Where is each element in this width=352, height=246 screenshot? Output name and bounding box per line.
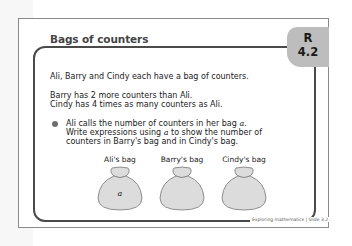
bag-icon-ali: a [95,166,145,212]
slide-footer: Exploring mathematics | Slide 3.2 [250,217,330,222]
fact-2: Cindy has 4 times as many counters as Al… [50,100,223,109]
tab-number: 4.2 [287,45,329,59]
svg-text:a: a [118,189,123,198]
bullet-line-2: Write expressions using a to show the nu… [66,128,262,137]
bullet-line-3: counters in Barry's bag and in Cindy's b… [66,137,238,146]
bag-icon-cindy [219,166,269,212]
fact-1: Barry has 2 more counters than Ali. [50,91,192,100]
bullet-line-1: Ali calls the number of counters in her … [66,119,247,128]
bag-label-ali: Ali's bag [90,155,150,164]
tab-letter: R [287,31,329,45]
bag-label-cindy: Cindy's bag [214,155,274,164]
bullet-icon [52,121,58,127]
resource-tab: R 4.2 [287,27,329,67]
bag-label-barry: Barry's bag [152,155,212,164]
bag-icon-barry [157,166,207,212]
slide-title: Bags of counters [50,33,148,45]
intro-text: Ali, Barry and Cindy each have a bag of … [50,72,249,81]
